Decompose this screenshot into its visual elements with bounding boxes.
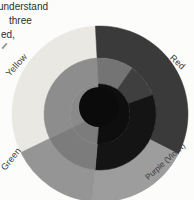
scanned-page: understand three ed, Yellow Red Green Pu…	[0, 0, 194, 200]
wheel-core-disk	[79, 87, 119, 127]
color-wheel	[0, 0, 194, 200]
